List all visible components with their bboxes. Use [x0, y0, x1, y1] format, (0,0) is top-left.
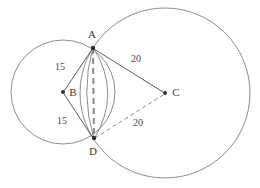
geometry-canvas: A B C D 15 15 20 20	[0, 0, 260, 188]
label-point-d: D	[89, 145, 97, 157]
measure-label-bd: 15	[57, 115, 67, 126]
segment-ad	[93, 48, 94, 138]
label-point-c: C	[172, 86, 179, 98]
measure-label-ab: 15	[55, 61, 65, 72]
vertex-dot-c	[163, 91, 167, 95]
segment-dc	[95, 95, 163, 138]
measure-label-dc: 20	[133, 117, 143, 128]
measure-label-ac: 20	[131, 53, 141, 64]
lens-arc-right	[93, 47, 108, 139]
label-point-a: A	[88, 28, 96, 40]
label-point-b: B	[69, 86, 76, 98]
vertex-dot-b	[61, 90, 65, 94]
vertex-dot-d	[92, 136, 96, 140]
vertex-dot-a	[91, 46, 95, 50]
geometry-figure: A B C D 15 15 20 20	[0, 0, 260, 188]
